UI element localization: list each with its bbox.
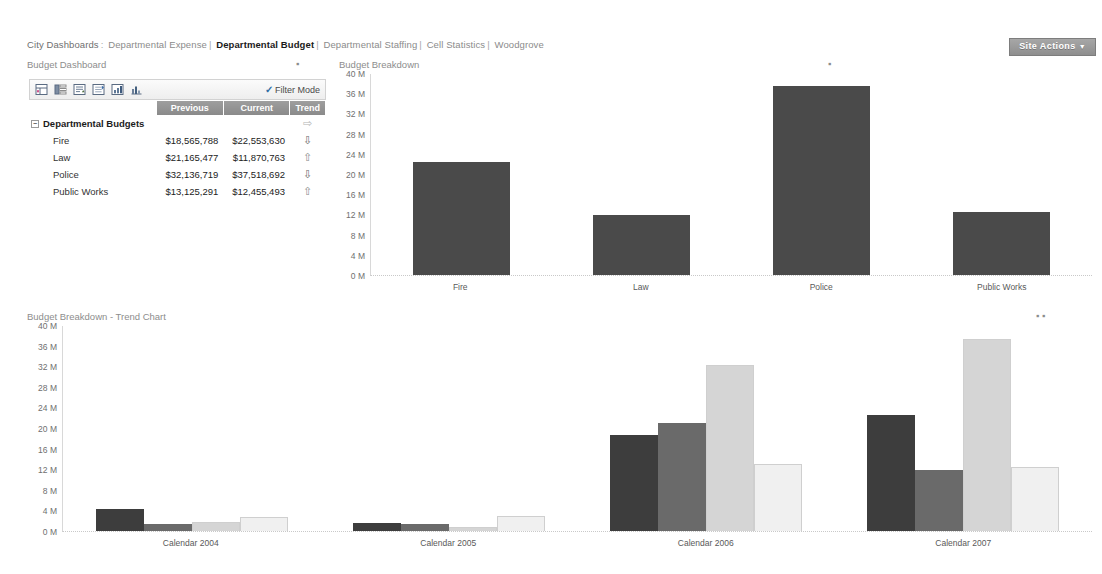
breadcrumb-item-departmental-budget[interactable]: Departmental Budget — [216, 39, 314, 50]
panel-menu-budget-breakdown[interactable]: ▪ — [828, 58, 831, 69]
gridline — [63, 450, 1092, 451]
gridline — [371, 74, 1092, 75]
chart-bar[interactable] — [706, 365, 754, 531]
table-row[interactable]: Police $32,136,719 $37,518,692 ⇩ — [29, 166, 326, 183]
y-axis-tick: 40 M — [346, 69, 365, 79]
arrow-up-icon: ⇧ — [303, 152, 312, 162]
gridline — [371, 236, 1092, 237]
breadcrumb-root-separator: : — [99, 39, 106, 50]
row-current-public-works: $12,455,493 — [223, 183, 290, 200]
chart-bar[interactable] — [593, 215, 690, 275]
chart-bar[interactable] — [401, 524, 449, 531]
row-trend-law: ⇧ — [290, 149, 326, 166]
chart-plot-area — [370, 74, 1092, 276]
row-current-fire: $22,553,630 — [223, 132, 290, 149]
row-label-public-works: Public Works — [29, 183, 157, 200]
table-row[interactable]: Public Works $13,125,291 $12,455,493 ⇧ — [29, 183, 326, 200]
budget-trend-chart: 40 M36 M32 M28 M24 M20 M16 M12 M8 M4 M0 … — [22, 326, 1092, 554]
chart-bar[interactable] — [413, 162, 510, 275]
breadcrumb-item-departmental-staffing[interactable]: Departmental Staffing — [324, 39, 418, 50]
gridline — [63, 491, 1092, 492]
row-current-law: $11,870,763 — [223, 149, 290, 166]
y-axis-tick: 40 M — [38, 321, 57, 331]
y-axis-tick: 32 M — [346, 109, 365, 119]
table-row-group[interactable]: −Departmental Budgets ⇨ — [29, 115, 326, 132]
x-axis-label: Law — [551, 276, 732, 298]
y-axis-tick: 12 M — [38, 465, 57, 475]
gridline — [371, 94, 1092, 95]
breadcrumb-separator: | — [207, 39, 214, 50]
chart-x-labels: FireLawPolicePublic Works — [370, 276, 1092, 298]
y-axis-tick: 36 M — [346, 89, 365, 99]
gridline — [371, 215, 1092, 216]
arrow-flat-icon: ⇨ — [303, 118, 312, 128]
scorecard-table: Previous Current Trend −Departmental Bud… — [29, 101, 326, 200]
y-axis-tick: 4 M — [43, 506, 57, 516]
row-label-law: Law — [29, 149, 157, 166]
breadcrumb-root[interactable]: City Dashboards — [27, 39, 99, 50]
expand-icon[interactable] — [91, 82, 106, 97]
scorecard-toolbar: ✓ Filter Mode — [29, 79, 326, 100]
chart-bar[interactable] — [1011, 467, 1059, 531]
chart-bar[interactable] — [449, 527, 497, 531]
row-previous-police: $32,136,719 — [157, 166, 224, 183]
gridline — [63, 388, 1092, 389]
x-axis-label: Calendar 2005 — [320, 532, 578, 554]
row-trend-fire: ⇩ — [290, 132, 326, 149]
y-axis-tick: 0 M — [43, 527, 57, 537]
arrow-up-icon: ⇧ — [303, 186, 312, 196]
chevron-down-icon: ▼ — [1076, 43, 1086, 50]
x-axis-label: Calendar 2007 — [835, 532, 1093, 554]
collapse-icon[interactable]: − — [31, 120, 39, 128]
gridline — [63, 326, 1092, 327]
row-previous-public-works: $13,125,291 — [157, 183, 224, 200]
chart-bar[interactable] — [240, 517, 288, 531]
trend-x-labels: Calendar 2004Calendar 2005Calendar 2006C… — [62, 532, 1092, 554]
group-current-value — [223, 115, 290, 132]
gridline — [63, 367, 1092, 368]
chart-bar[interactable] — [953, 212, 1050, 275]
table-row[interactable]: Law $21,165,477 $11,870,763 ⇧ — [29, 149, 326, 166]
table-row[interactable]: Fire $18,565,788 $22,553,630 ⇩ — [29, 132, 326, 149]
chart-bar[interactable] — [144, 524, 192, 531]
chart-bar[interactable] — [754, 464, 802, 531]
filter-column-icon[interactable] — [53, 82, 68, 97]
breadcrumb-item-departmental-expense[interactable]: Departmental Expense — [108, 39, 207, 50]
chart-bar-icon[interactable] — [110, 82, 125, 97]
chart-bar[interactable] — [915, 470, 963, 531]
panel-menu-trend-chart[interactable]: ▪ ▪ — [1036, 310, 1045, 321]
panel-title-budget-dashboard: Budget Dashboard — [27, 59, 106, 70]
x-axis-label: Fire — [370, 276, 551, 298]
gridline — [63, 429, 1092, 430]
chart-y-axis: 40 M36 M32 M28 M24 M20 M16 M12 M8 M4 M0 … — [330, 74, 370, 298]
y-axis-tick: 0 M — [351, 271, 365, 281]
breadcrumb-separator: | — [417, 39, 424, 50]
scorecard-toolbar-icons — [30, 82, 144, 97]
chart-detail-icon[interactable] — [129, 82, 144, 97]
chart-bar[interactable] — [497, 516, 545, 531]
column-header-trend[interactable]: Trend — [290, 101, 326, 115]
scorecard-icon[interactable] — [34, 82, 49, 97]
y-axis-tick: 16 M — [346, 190, 365, 200]
y-axis-tick: 24 M — [346, 150, 365, 160]
chart-bar[interactable] — [658, 423, 706, 531]
panel-menu-budget-dashboard[interactable]: ▪ — [296, 58, 299, 69]
row-label-police: Police — [29, 166, 157, 183]
column-header-current[interactable]: Current — [223, 101, 290, 115]
chart-bar[interactable] — [192, 522, 240, 531]
gridline — [63, 408, 1092, 409]
chart-bar[interactable] — [867, 415, 915, 531]
check-icon: ✓ — [265, 84, 273, 95]
group-trend-indicator: ⇨ — [290, 115, 326, 132]
site-actions-button[interactable]: Site Actions▼ — [1009, 38, 1096, 56]
y-axis-tick: 4 M — [351, 251, 365, 261]
breadcrumb-separator: | — [485, 39, 492, 50]
chart-bar[interactable] — [353, 523, 401, 531]
gridline — [63, 511, 1092, 512]
column-header-previous[interactable]: Previous — [157, 101, 224, 115]
filter-mode-toggle[interactable]: ✓ Filter Mode — [265, 84, 325, 95]
breadcrumb-item-woodgrove[interactable]: Woodgrove — [494, 39, 543, 50]
x-axis-label: Public Works — [912, 276, 1093, 298]
breadcrumb-item-cell-statistics[interactable]: Cell Statistics — [427, 39, 486, 50]
sort-icon[interactable] — [72, 82, 87, 97]
